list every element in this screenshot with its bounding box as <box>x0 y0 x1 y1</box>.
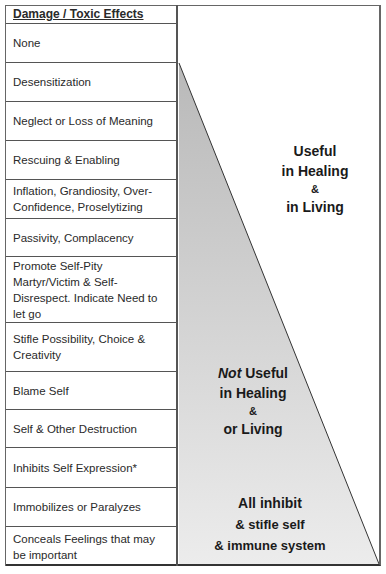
table-row: Conceals Feelings that may be important <box>6 527 177 566</box>
table-row: Desensitization <box>6 63 177 102</box>
table-row: Promote Self-Pity Martyr/Victim & Self-D… <box>6 257 177 323</box>
not-useful-line1: Not Useful <box>198 363 308 383</box>
useful-line2: in Healing <box>265 161 365 181</box>
useful-line1: Useful <box>265 141 365 161</box>
inhibit-line2: & stifle self <box>200 514 340 535</box>
table-row: Inflation, Grandiosity, Over-Confidence,… <box>6 180 177 219</box>
toxic-effects-table: Damage / Toxic Effects None Desensitizat… <box>5 5 178 566</box>
useful-line3: in Living <box>265 197 365 217</box>
inhibit-label: All inhibit & stifle self & immune syste… <box>200 493 340 556</box>
inhibit-line1: All inhibit <box>200 493 340 514</box>
table-row: Neglect or Loss of Meaning <box>6 102 177 141</box>
table-header: Damage / Toxic Effects <box>6 5 177 24</box>
not-useful-line2: in Healing <box>198 383 308 403</box>
table-row: Self & Other Destruction <box>6 410 177 448</box>
not-useful-amp: & <box>198 403 308 419</box>
useful-amp: & <box>265 181 365 197</box>
table-row: Stifle Possibility, Choice & Creativity <box>6 323 177 372</box>
table-row: Blame Self <box>6 372 177 410</box>
not-useful-label: Not Useful in Healing & or Living <box>198 363 308 439</box>
inhibit-line3: & immune system <box>200 535 340 556</box>
useful-label: Useful in Healing & in Living <box>265 141 365 217</box>
table-row: Rescuing & Enabling <box>6 141 177 180</box>
table-row: None <box>6 24 177 63</box>
not-emphasis: Not <box>218 365 241 381</box>
table-row: Immobilizes or Paralyzes <box>6 488 177 527</box>
not-useful-rest: Useful <box>241 365 288 381</box>
table-row: Passivity, Complacency <box>6 219 177 257</box>
not-useful-line3: or Living <box>198 419 308 439</box>
table-row: Inhibits Self Expression* <box>6 448 177 488</box>
